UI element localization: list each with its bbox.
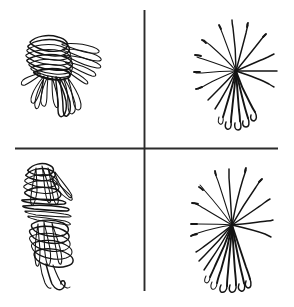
panel-top-left[interactable] xyxy=(4,6,140,144)
figure-root xyxy=(0,0,294,307)
figure-canvas xyxy=(0,0,294,307)
panel-bottom-left-hitbox[interactable] xyxy=(4,154,140,300)
panel-bottom-right[interactable] xyxy=(150,154,290,300)
panel-top-right[interactable] xyxy=(150,6,290,144)
panel-bottom-left[interactable] xyxy=(4,154,140,300)
